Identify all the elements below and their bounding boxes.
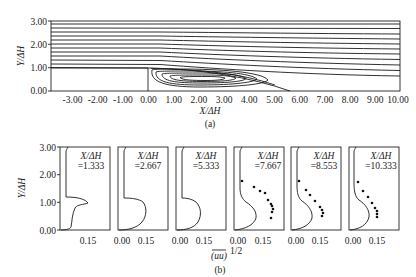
xtick: 10.00	[387, 95, 409, 105]
ytick: 2.00	[39, 170, 56, 180]
y-axis-label: Y/ΔH	[16, 45, 26, 66]
xtick: 0.00	[140, 95, 157, 105]
xtick: 7.00	[317, 95, 334, 105]
station-value: =10.333	[365, 161, 397, 171]
xtick: 5.00	[266, 95, 283, 105]
step-wall	[51, 68, 148, 91]
station-value: =7.667	[255, 161, 282, 171]
profile-station-6: X/ΔH =10.333 0.00 0.15	[345, 147, 399, 246]
station-value: =1.333	[78, 161, 105, 171]
xtick: 0.00	[172, 236, 189, 246]
xtick: 4.00	[241, 95, 258, 105]
xtick: 3.00	[216, 95, 233, 105]
profile-station-3: X/ΔH =5.333 0.00 0.15	[172, 147, 226, 246]
ytick: 2.00	[30, 40, 47, 50]
figure: 0.00 1.00 2.00 3.00 Y/ΔH -3.00 -2.00 -1.…	[0, 0, 416, 277]
station-label: X/ΔH	[195, 151, 218, 161]
station-value: =2.667	[135, 161, 162, 171]
profile-station-2: X/ΔH =2.667 0.00 0.15	[114, 147, 168, 246]
station-label: X/ΔH	[370, 151, 393, 161]
panel-b-xlabel: (uu) 1/2 (b)	[211, 246, 242, 276]
xtick: 1.00	[165, 95, 182, 105]
xtick: -1.00	[113, 95, 133, 105]
ytick: 3.00	[30, 17, 47, 27]
ytick: 3.00	[39, 143, 56, 153]
ytick: 0.00	[39, 226, 56, 236]
xtick: 0.15	[255, 236, 272, 246]
x-axis-label-superscript: 1/2	[230, 246, 242, 256]
xtick: 0.15	[196, 236, 213, 246]
station-label: X/ΔH	[137, 151, 160, 161]
profile-station-5: X/ΔH =8.553 0.00 0.15	[288, 147, 341, 246]
x-axis-label: X/ΔH	[199, 106, 222, 116]
xtick: 0.15	[80, 236, 97, 246]
station-label: X/ΔH	[80, 151, 103, 161]
panel-b-caption: (b)	[214, 265, 225, 276]
profile-station-4: X/ΔH =7.667 0.00 0.15	[230, 147, 284, 246]
xtick: 0.15	[312, 236, 329, 246]
measured-points	[357, 181, 379, 219]
panel-a-xaxis: -3.00 -2.00 -1.00 0.00 1.00 2.00 3.00 4.…	[63, 95, 409, 130]
xtick: 0.15	[369, 236, 386, 246]
xtick: 0.15	[138, 236, 155, 246]
ytick: 1.00	[30, 63, 47, 73]
xtick: 0.00	[288, 236, 305, 246]
profile-station-1: X/ΔH =1.333 0.15	[60, 147, 110, 246]
x-axis-label: (uu)	[211, 251, 227, 262]
xtick: 0.00	[345, 236, 362, 246]
panel-b: 3.00 2.00 1.00 0.00 Y/ΔH X/ΔH =1.333 0.1…	[17, 143, 399, 277]
ytick: 0.00	[30, 86, 47, 96]
xtick: -3.00	[63, 95, 83, 105]
xtick: -2.00	[88, 95, 108, 105]
xtick: 2.00	[191, 95, 208, 105]
station-value: =8.553	[311, 161, 338, 171]
station-label: X/ΔH	[257, 151, 280, 161]
xtick: 0.00	[114, 236, 131, 246]
panel-a: 0.00 1.00 2.00 3.00 Y/ΔH -3.00 -2.00 -1.…	[16, 17, 409, 131]
panel-a-caption: (a)	[205, 119, 216, 130]
xtick: 6.00	[291, 95, 308, 105]
ytick: 1.00	[39, 198, 56, 208]
station-value: =5.333	[193, 161, 220, 171]
y-axis-label: Y/ΔH	[17, 177, 27, 198]
xtick: 0.00	[230, 236, 247, 246]
station-label: X/ΔH	[313, 151, 336, 161]
panel-b-yaxis: 3.00 2.00 1.00 0.00 Y/ΔH	[17, 143, 60, 236]
panel-a-yaxis: 0.00 1.00 2.00 3.00 Y/ΔH	[16, 17, 51, 97]
xtick: 9.00	[367, 95, 384, 105]
xtick: 8.00	[342, 95, 359, 105]
measured-points	[241, 180, 275, 220]
